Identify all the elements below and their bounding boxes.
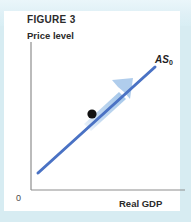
as-curve	[38, 67, 155, 173]
equilibrium-point	[87, 109, 96, 118]
y-axis-label: Price level	[27, 30, 74, 41]
as-curve-label: AS0	[155, 54, 173, 66]
x-axis-label: Real GDP	[119, 198, 162, 209]
figure-title: FIGURE 3	[27, 14, 76, 25]
as-curve-label-name: AS	[155, 54, 169, 65]
as-curve-label-subscript: 0	[169, 59, 173, 66]
figure-container: FIGURE 3 Price level Real GDP 0 AS0	[0, 0, 191, 222]
origin-label: 0	[16, 193, 21, 203]
